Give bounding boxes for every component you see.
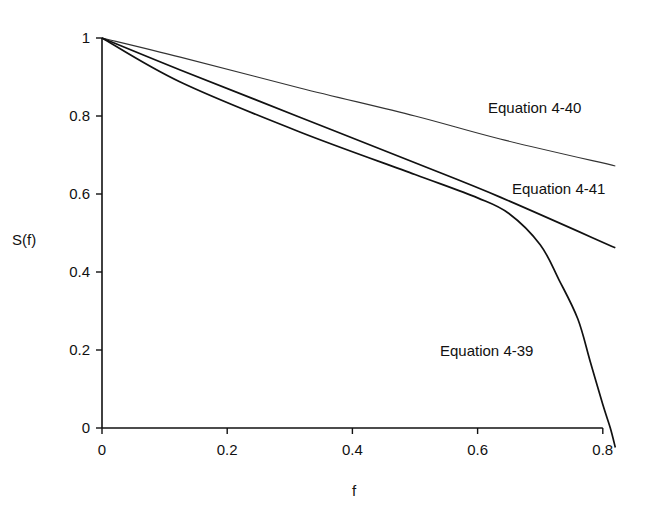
x-tick-label: 0 (98, 441, 106, 458)
y-tick-label: 0.6 (69, 185, 90, 202)
x-tick-label: 0.6 (467, 441, 488, 458)
x-tick-label: 0.2 (217, 441, 238, 458)
y-tick-label: 0.8 (69, 107, 90, 124)
line-equation-4-41 (102, 38, 615, 248)
label-equation-4-40: Equation 4-40 (488, 99, 581, 116)
x-tick-label: 0.4 (342, 441, 363, 458)
y-tick-label: 1 (82, 29, 90, 46)
y-tick-label: 0.2 (69, 341, 90, 358)
y-tick-label: 0 (82, 419, 90, 436)
y-tick-label: 0.4 (69, 263, 90, 280)
label-equation-4-41: Equation 4-41 (512, 180, 605, 197)
axes: 00.20.40.60.8100.20.40.60.8 (69, 29, 613, 458)
x-axis-label: f (352, 482, 357, 499)
chart: 00.20.40.60.8100.20.40.60.8 S(f) f Equat… (0, 0, 649, 526)
x-tick-label: 0.8 (592, 441, 613, 458)
y-axis-label: S(f) (12, 231, 36, 248)
label-equation-4-39: Equation 4-39 (440, 342, 533, 359)
